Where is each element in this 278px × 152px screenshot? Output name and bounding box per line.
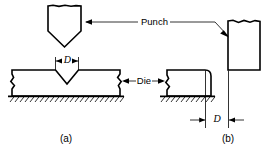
punch-die-diagram: D bbox=[0, 0, 278, 152]
figure-root: D bbox=[0, 0, 278, 152]
punch-a-outline bbox=[48, 5, 81, 47]
ground-b-hatching bbox=[161, 97, 215, 102]
punch-b-outline bbox=[228, 20, 260, 70]
ground-b-group bbox=[160, 96, 215, 102]
die-arrow-left bbox=[122, 78, 129, 83]
punch-arrow-left bbox=[85, 19, 92, 24]
caption-b: (b) bbox=[222, 133, 234, 144]
die-callout-group: Die bbox=[122, 75, 165, 86]
die-arrow-right bbox=[158, 78, 165, 83]
dim-a-arrow-left bbox=[56, 59, 62, 64]
dim-a-arrow-right bbox=[72, 59, 78, 64]
die-b-outline bbox=[166, 70, 211, 96]
dimension-b-label: D bbox=[212, 113, 221, 124]
caption-a: (a) bbox=[60, 133, 72, 144]
die-label: Die bbox=[137, 75, 151, 86]
ground-a-hatching bbox=[10, 97, 124, 102]
die-b-group bbox=[166, 70, 211, 96]
die-a-outline bbox=[11, 70, 121, 96]
punch-b-group bbox=[228, 20, 260, 70]
punch-callout-group: Punch bbox=[85, 16, 229, 38]
dim-b-arrow-left bbox=[199, 118, 205, 123]
dim-b-arrow-right bbox=[229, 118, 235, 123]
punch-label: Punch bbox=[141, 16, 168, 27]
dimension-a-label: D bbox=[63, 54, 72, 65]
ground-a-group bbox=[8, 96, 124, 102]
dimension-a-group: D bbox=[56, 54, 79, 70]
punch-a-group bbox=[48, 5, 81, 47]
die-a-group bbox=[11, 70, 121, 96]
